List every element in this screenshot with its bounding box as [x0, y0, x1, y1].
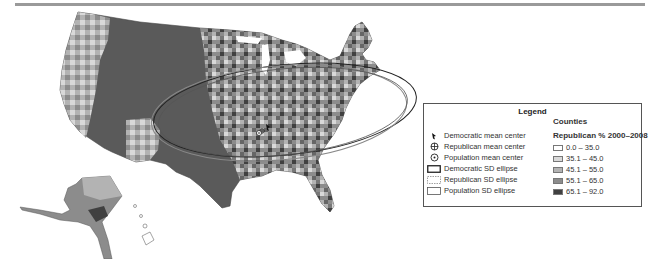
- population-sd-ellipse-icon: [427, 186, 441, 195]
- legend-class-list: 0.0 – 35.0 35.1 – 45.0 45.1 – 55.0 55.1 …: [553, 142, 604, 197]
- swatch-55-65: [553, 178, 563, 184]
- republican-percent-title: Republican % 2000–2008: [553, 131, 648, 140]
- democratic-mean-center-icon: [427, 131, 441, 140]
- legend-class-label: 55.1 – 65.0: [566, 176, 604, 185]
- republican-mean-center-icon: [427, 142, 441, 151]
- legend-item-democratic-sd-ellipse: Democratic SD ellipse: [427, 163, 526, 174]
- legend-item-republican-mean-center: Republican mean center: [427, 141, 526, 152]
- legend-class-item: 0.0 – 35.0: [553, 142, 604, 153]
- legend-class-label: 35.1 – 45.0: [566, 154, 604, 163]
- legend-item-population-sd-ellipse: Population SD ellipse: [427, 185, 526, 196]
- legend-label: Population SD ellipse: [444, 186, 515, 195]
- legend-label: Republican SD ellipse: [444, 175, 517, 184]
- legend-class-label: 0.0 – 35.0: [566, 143, 599, 152]
- legend-symbol-list: Democratic mean center Republican mean c…: [427, 130, 526, 196]
- legend-label: Democratic SD ellipse: [444, 164, 518, 173]
- population-mean-center-icon: [427, 153, 441, 162]
- legend-title: Legend: [424, 107, 641, 116]
- legend-class-item: 55.1 – 65.0: [553, 175, 604, 186]
- counties-title: Counties: [553, 117, 587, 126]
- legend-class-item: 65.1 – 92.0: [553, 186, 604, 197]
- legend-label: Democratic mean center: [444, 131, 526, 140]
- hawaii-inset: [134, 205, 155, 246]
- legend-class-item: 45.1 – 55.0: [553, 164, 604, 175]
- legend-label: Republican mean center: [444, 142, 525, 151]
- legend-label: Population mean center: [444, 153, 523, 162]
- legend-class-label: 45.1 – 55.0: [566, 165, 604, 174]
- legend-box: Legend Counties Republican % 2000–2008 D…: [423, 103, 642, 207]
- population-mean-center-icon: [257, 131, 262, 136]
- legend-class-item: 35.1 – 45.0: [553, 153, 604, 164]
- swatch-35-45: [553, 156, 563, 162]
- legend-item-democratic-mean-center: Democratic mean center: [427, 130, 526, 141]
- legend-class-label: 65.1 – 92.0: [566, 187, 604, 196]
- swatch-45-55: [553, 167, 563, 173]
- legend-item-republican-sd-ellipse: Republican SD ellipse: [427, 174, 526, 185]
- swatch-0-35: [553, 145, 563, 151]
- legend-item-population-mean-center: Population mean center: [427, 152, 526, 163]
- republican-sd-ellipse-icon: [427, 175, 441, 184]
- swatch-65-92: [553, 189, 563, 195]
- democratic-sd-ellipse-icon: [427, 164, 441, 173]
